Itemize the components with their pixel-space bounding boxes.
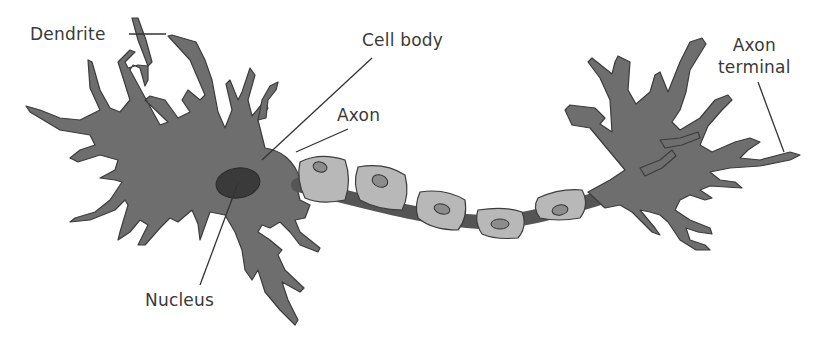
myelin-sheath (299, 156, 586, 238)
leader-axon-terminal (758, 82, 784, 152)
label-axon: Axon (337, 105, 380, 125)
label-dendrite: Dendrite (30, 24, 106, 44)
label-axon-terminal-line2: terminal (718, 56, 791, 78)
label-nucleus: Nucleus (145, 290, 214, 310)
label-axon-terminal: Axon terminal (718, 34, 791, 78)
cell-body-with-dendrites (26, 18, 320, 325)
leader-axon (296, 129, 348, 152)
neuron-illustration (0, 0, 825, 347)
neuron-diagram: Dendrite Cell body Axon Axon terminal Nu… (0, 0, 825, 347)
label-axon-terminal-line1: Axon (718, 34, 791, 56)
label-cell-body: Cell body (362, 30, 443, 50)
